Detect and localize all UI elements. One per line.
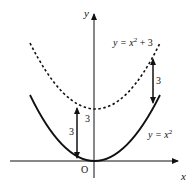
parabola-shift-diagram: y x O 3 3 3 y = x2 + 3 y = x2: [0, 0, 195, 188]
left-shift-label: 3: [69, 126, 74, 137]
axis-offset-label: 3: [85, 113, 90, 124]
curve-y-equals-x-squared: [30, 95, 160, 161]
curve-label-dashed: y = x2 + 3: [112, 36, 153, 48]
origin-label: O: [81, 164, 88, 175]
right-shift-label: 3: [156, 75, 161, 86]
y-axis-label: y: [83, 7, 89, 19]
x-axis-label: x: [180, 170, 186, 182]
curve-label-solid: y = x2: [147, 128, 173, 140]
curve-y-equals-x-squared-plus-3: [30, 43, 160, 109]
